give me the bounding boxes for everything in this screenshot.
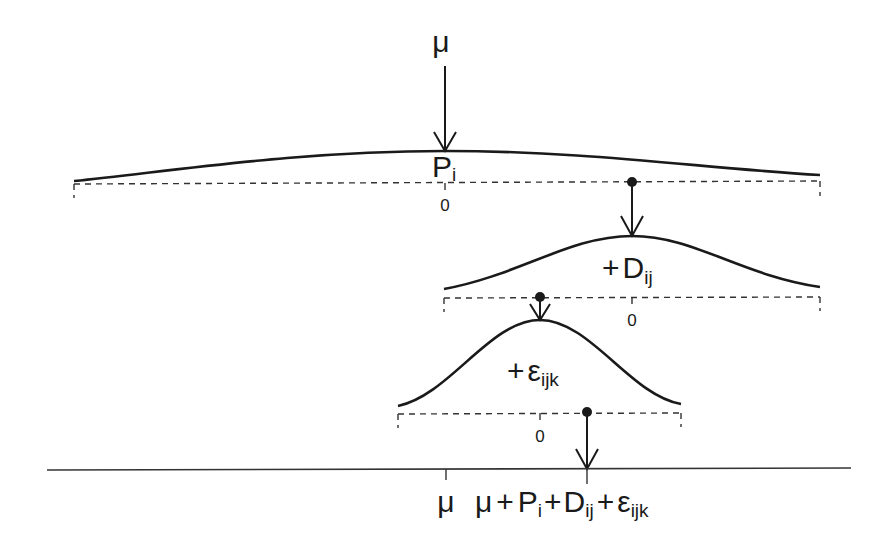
plant-to-day-arrow — [621, 182, 643, 236]
day-zero-label: 0 — [627, 311, 636, 330]
mu-arrow — [434, 66, 456, 151]
variance-components-diagram: μ 0 Pi 0 +Dij — [0, 0, 892, 554]
axis-mu-label: μ — [437, 485, 454, 518]
plant-zero-label: 0 — [440, 196, 449, 215]
plant-effect-label: Pi — [432, 150, 456, 185]
day-effect-label: +Dij — [602, 251, 653, 288]
diagram-canvas: μ 0 Pi 0 +Dij — [0, 0, 892, 554]
residual-to-observation-arrow — [576, 412, 598, 469]
day-to-residual-arrow — [530, 297, 550, 320]
residual-effect-label: +εijk — [507, 354, 559, 390]
plant-distribution: 0 Pi — [74, 150, 820, 215]
mu-top-label: μ — [432, 25, 449, 58]
day-distribution: 0 +Dij — [444, 236, 820, 330]
residual-distribution: 0 +εijk — [398, 320, 681, 446]
observation-sum-label: μ+Pi+Dij+εijk — [475, 485, 649, 521]
residual-zero-label: 0 — [535, 427, 544, 446]
observation-axis — [47, 468, 851, 470]
